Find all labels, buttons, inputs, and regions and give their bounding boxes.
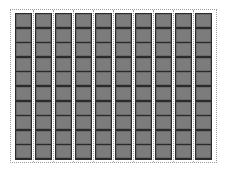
- frame-cell: [56, 58, 71, 71]
- frame-cell: [196, 145, 211, 158]
- sprocket-divider: [133, 10, 134, 162]
- sprocket-divider: [173, 10, 174, 162]
- frame-cell: [136, 87, 151, 100]
- film-strip: [155, 13, 172, 160]
- sprocket-divider: [53, 10, 54, 162]
- frame-cell: [176, 116, 191, 129]
- frame-cell: [36, 14, 51, 27]
- frame-cell: [96, 43, 111, 56]
- frame-cell: [56, 72, 71, 85]
- frame-cell: [196, 116, 211, 129]
- frame-cell: [116, 145, 131, 158]
- frame-cell: [116, 102, 131, 115]
- sprocket-divider: [113, 10, 114, 162]
- frame-cell: [36, 29, 51, 42]
- frame-cell: [136, 131, 151, 144]
- frame-cell: [36, 43, 51, 56]
- frame-cell: [176, 14, 191, 27]
- frame-cell: [116, 29, 131, 42]
- frame-cell: [56, 102, 71, 115]
- frame-cell: [96, 72, 111, 85]
- frame-cell: [36, 72, 51, 85]
- frame-cell: [156, 131, 171, 144]
- frame-cell: [136, 145, 151, 158]
- frame-cell: [76, 29, 91, 42]
- frame-cell: [56, 29, 71, 42]
- frame-cell: [96, 14, 111, 27]
- frame-cell: [16, 58, 31, 71]
- frame-cell: [156, 116, 171, 129]
- frame-cell: [96, 116, 111, 129]
- frame-cell: [176, 43, 191, 56]
- frame-cell: [156, 145, 171, 158]
- frame-cell: [16, 87, 31, 100]
- frame-cell: [76, 116, 91, 129]
- frame-cell: [76, 131, 91, 144]
- frame-cell: [156, 14, 171, 27]
- sprocket-divider: [93, 10, 94, 162]
- frame-cell: [196, 87, 211, 100]
- frame-cell: [136, 72, 151, 85]
- frame-cell: [176, 145, 191, 158]
- frame-cell: [16, 29, 31, 42]
- frame-cell: [116, 131, 131, 144]
- frame-cell: [196, 58, 211, 71]
- frame-cell: [76, 102, 91, 115]
- frame-cell: [176, 72, 191, 85]
- frame-cell: [16, 131, 31, 144]
- frame-cell: [176, 58, 191, 71]
- film-strip: [75, 13, 92, 160]
- frame-cell: [116, 58, 131, 71]
- frame-cell: [196, 43, 211, 56]
- frame-cell: [176, 102, 191, 115]
- frame-cell: [156, 102, 171, 115]
- frame-cell: [136, 102, 151, 115]
- frame-cell: [96, 58, 111, 71]
- frame-cell: [76, 87, 91, 100]
- film-strip: [35, 13, 52, 160]
- frame-cell: [56, 145, 71, 158]
- frame-cell: [76, 58, 91, 71]
- frame-cell: [136, 29, 151, 42]
- frame-cell: [96, 131, 111, 144]
- frame-cell: [116, 72, 131, 85]
- film-strip: [95, 13, 112, 160]
- frame-cell: [176, 131, 191, 144]
- film-strip: [55, 13, 72, 160]
- frame-cell: [116, 87, 131, 100]
- frame-cell: [16, 116, 31, 129]
- frame-cell: [96, 29, 111, 42]
- film-strip: [195, 13, 212, 160]
- frame-cell: [196, 29, 211, 42]
- frame-cell: [116, 116, 131, 129]
- film-strip: [135, 13, 152, 160]
- frame-cell: [176, 29, 191, 42]
- film-strip: [15, 13, 32, 160]
- frame-cell: [16, 102, 31, 115]
- frame-cell: [56, 14, 71, 27]
- frame-cell: [76, 72, 91, 85]
- frame-cell: [16, 72, 31, 85]
- frame-cell: [56, 131, 71, 144]
- frame-cell: [196, 102, 211, 115]
- frame-cell: [156, 72, 171, 85]
- sprocket-divider: [193, 10, 194, 162]
- sprocket-divider: [153, 10, 154, 162]
- frame-cell: [136, 43, 151, 56]
- frame-cell: [36, 116, 51, 129]
- contact-sheet: [10, 9, 217, 163]
- frame-cell: [56, 87, 71, 100]
- frame-cell: [16, 14, 31, 27]
- frame-cell: [156, 58, 171, 71]
- frame-cell: [56, 116, 71, 129]
- frame-cell: [16, 43, 31, 56]
- frame-cell: [176, 87, 191, 100]
- frame-cell: [96, 145, 111, 158]
- film-strip: [115, 13, 132, 160]
- frame-cell: [156, 29, 171, 42]
- frame-cell: [76, 43, 91, 56]
- frame-cell: [136, 14, 151, 27]
- frame-cell: [36, 102, 51, 115]
- frame-cell: [116, 43, 131, 56]
- frame-cell: [116, 14, 131, 27]
